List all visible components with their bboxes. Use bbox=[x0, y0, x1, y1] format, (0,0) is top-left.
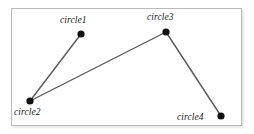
node-label-circle1: circle1 bbox=[60, 15, 87, 25]
diagram-canvas: circle1circle2circle3circle4 bbox=[0, 0, 254, 134]
node-label-circle4: circle4 bbox=[177, 112, 204, 122]
diagram-frame bbox=[11, 8, 242, 126]
node-label-circle2: circle2 bbox=[14, 107, 41, 117]
node-label-circle3: circle3 bbox=[147, 12, 174, 22]
